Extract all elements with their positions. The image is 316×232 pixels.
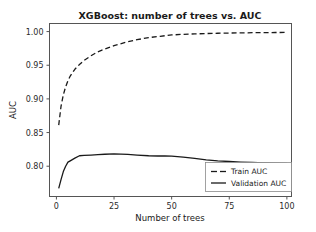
chart-figure: XGBoost: number of trees vs. AUC 0.800.8… [0,0,316,232]
x-tick-label: 25 [109,202,119,211]
y-tick-label: 1.00 [26,28,44,37]
chart-legend: Train AUC Validation AUC [206,163,292,192]
legend-label-train: Train AUC [230,167,267,176]
x-tick-label: 0 [54,202,59,211]
x-tick-label: 100 [279,202,294,211]
x-tick-label: 75 [224,202,234,211]
chart-title: XGBoost: number of trees vs. AUC [79,10,262,21]
legend-label-validation: Validation AUC [231,179,286,188]
y-axis-label: AUC [8,101,18,119]
x-axis-label: Number of trees [135,213,205,223]
chart-canvas: XGBoost: number of trees vs. AUC 0.800.8… [0,0,316,232]
y-tick-label: 0.90 [26,95,44,104]
y-tick-label: 0.80 [26,162,44,171]
y-tick-label: 0.85 [26,129,44,138]
y-tick-label: 0.95 [26,61,44,70]
figure-background [0,0,316,232]
x-tick-label: 50 [167,202,177,211]
